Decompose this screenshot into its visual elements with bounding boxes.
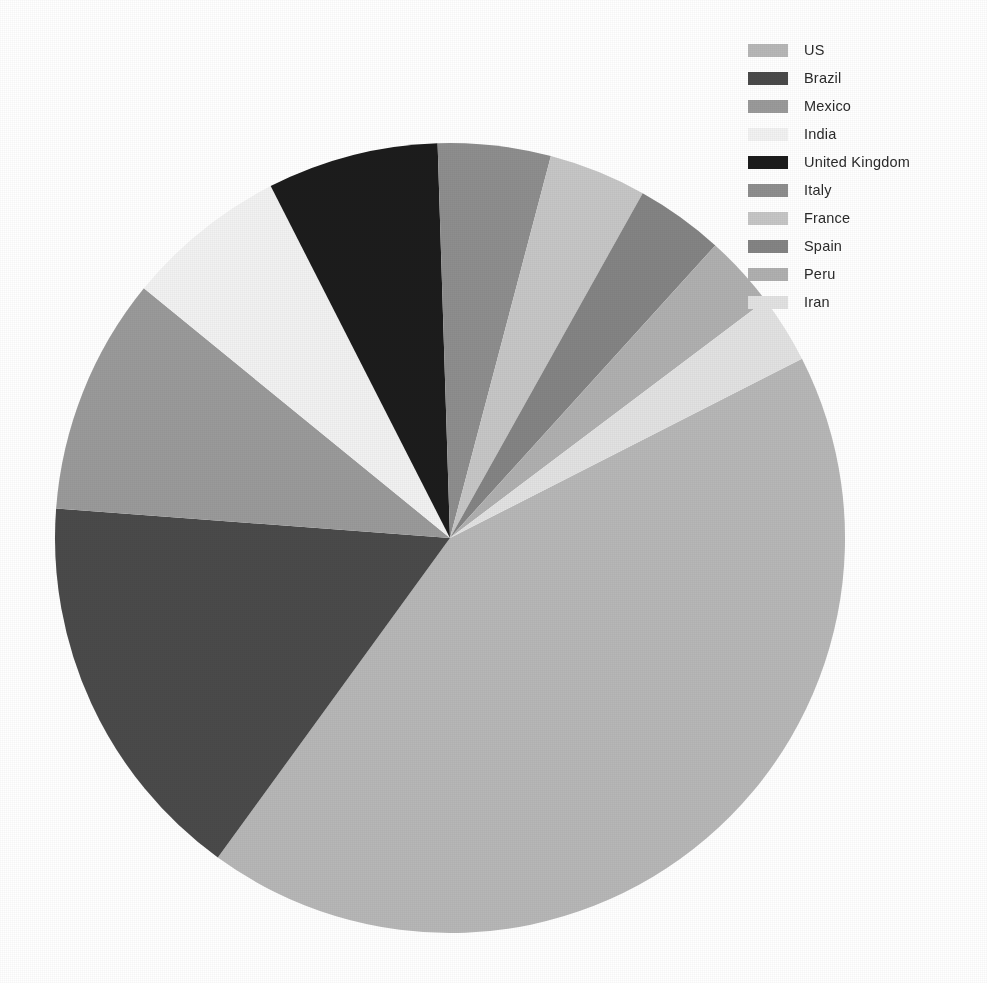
legend-swatch-icon <box>748 184 788 197</box>
legend-item-label: United Kingdom <box>804 148 910 176</box>
legend-item-spain[interactable]: Spain <box>748 232 978 260</box>
legend-swatch-icon <box>748 128 788 141</box>
legend-item-label: France <box>804 204 850 232</box>
legend-item-label: Iran <box>804 288 830 316</box>
legend-swatch-icon <box>748 100 788 113</box>
legend-item-peru[interactable]: Peru <box>748 260 978 288</box>
legend-item-label: Mexico <box>804 92 851 120</box>
legend-swatch-icon <box>748 72 788 85</box>
legend-swatch-icon <box>748 156 788 169</box>
legend-swatch-icon <box>748 268 788 281</box>
legend-item-label: Italy <box>804 176 832 204</box>
legend-item-label: Brazil <box>804 64 841 92</box>
legend-item-label: India <box>804 120 836 148</box>
legend-item-france[interactable]: France <box>748 204 978 232</box>
legend-item-italy[interactable]: Italy <box>748 176 978 204</box>
legend-item-iran[interactable]: Iran <box>748 288 978 316</box>
legend-swatch-icon <box>748 240 788 253</box>
legend-item-label: Spain <box>804 232 842 260</box>
legend-item-india[interactable]: India <box>748 120 978 148</box>
legend-item-brazil[interactable]: Brazil <box>748 64 978 92</box>
chart-legend: USBrazilMexicoIndiaUnited KingdomItalyFr… <box>748 36 978 316</box>
legend-item-label: Peru <box>804 260 835 288</box>
pie-chart-figure: USBrazilMexicoIndiaUnited KingdomItalyFr… <box>0 0 987 983</box>
legend-item-united-kingdom[interactable]: United Kingdom <box>748 148 978 176</box>
legend-swatch-icon <box>748 44 788 57</box>
legend-swatch-icon <box>748 296 788 309</box>
legend-item-us[interactable]: US <box>748 36 978 64</box>
legend-swatch-icon <box>748 212 788 225</box>
legend-item-mexico[interactable]: Mexico <box>748 92 978 120</box>
legend-item-label: US <box>804 36 825 64</box>
pie-slice-group: USBrazilMexicoIndiaUnited KingdomItalyFr… <box>55 143 845 933</box>
